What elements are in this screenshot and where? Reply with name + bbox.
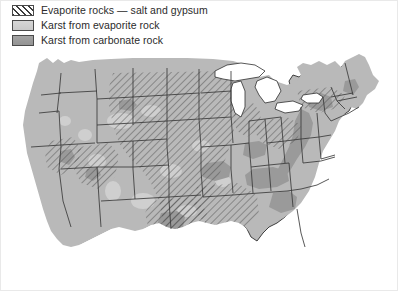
map-legend: Evaporite rocks — salt and gypsum Karst … bbox=[12, 3, 242, 48]
legend-label-karst-carbonate: Karst from carbonate rock bbox=[41, 35, 163, 46]
hatch-florida bbox=[299, 207, 319, 251]
legend-swatch-dark-gray-icon bbox=[12, 35, 34, 46]
legend-label-karst-evaporite: Karst from evaporite rock bbox=[41, 20, 160, 31]
map-thematic-layer bbox=[1, 51, 398, 291]
legend-item-karst-evaporite: Karst from evaporite rock bbox=[12, 18, 242, 33]
legend-swatch-light-gray-icon bbox=[12, 20, 34, 31]
figure-frame: Evaporite rocks — salt and gypsum Karst … bbox=[0, 0, 398, 291]
legend-item-karst-carbonate: Karst from carbonate rock bbox=[12, 33, 242, 48]
legend-item-evaporite-rocks: Evaporite rocks — salt and gypsum bbox=[12, 3, 242, 18]
united-states-map bbox=[1, 51, 398, 291]
legend-label-evaporite-rocks: Evaporite rocks — salt and gypsum bbox=[41, 5, 208, 16]
map-canvas bbox=[1, 51, 398, 291]
lake-ontario bbox=[301, 93, 323, 103]
legend-swatch-hatch-icon bbox=[12, 5, 34, 16]
